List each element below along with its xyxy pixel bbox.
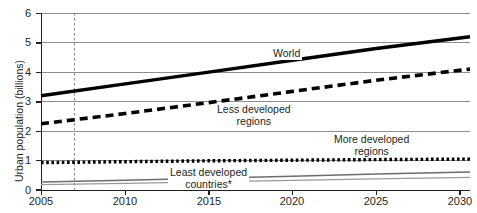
series-label-least-developed-line1: Least developed (170, 166, 247, 178)
series-label-world: World (271, 48, 302, 60)
series-label-less-developed-line2: regions (237, 115, 271, 127)
series-label-more-developed-regions: More developed regions (332, 134, 411, 157)
x-tick-2030: 2030 (434, 195, 477, 207)
y-tick-4: 4 (11, 66, 31, 78)
y-tick-2: 2 (11, 125, 31, 137)
series-label-more-developed-line1: More developed (334, 133, 409, 145)
x-tick-2025: 2025 (350, 195, 402, 207)
series-label-least-developed-line2: countries* (185, 178, 232, 190)
series-label-least-developed-countries: Least developed countries* (168, 167, 249, 190)
x-tick-2015: 2015 (183, 195, 235, 207)
x-tick-2005: 2005 (15, 195, 67, 207)
series-line-more-developed-regions (41, 159, 470, 163)
series-label-less-developed-line1: Less developed (217, 103, 291, 115)
series-label-more-developed-line2: regions (354, 145, 388, 157)
y-tick-5: 5 (11, 36, 31, 48)
y-tick-1: 1 (11, 154, 31, 166)
y-tick-6: 6 (11, 7, 31, 19)
x-tick-2010: 2010 (99, 195, 151, 207)
y-axis-ticks (36, 14, 42, 191)
series-label-less-developed-regions: Less developed regions (215, 104, 293, 127)
series-line-world (41, 37, 470, 96)
y-tick-0: 0 (11, 184, 31, 196)
y-tick-3: 3 (11, 95, 31, 107)
x-tick-2020: 2020 (266, 195, 318, 207)
